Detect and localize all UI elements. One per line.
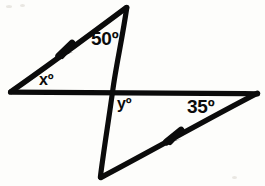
left-to-right-transversal-line	[11, 92, 258, 94]
scan-speck	[232, 176, 237, 179]
geometry-diagram-canvas	[0, 0, 265, 186]
scan-speck	[20, 4, 25, 7]
angle-label-y: yº	[117, 96, 131, 112]
angle-label-x: xº	[39, 72, 53, 88]
angle-label-35: 35º	[187, 97, 214, 116]
geometry-figure: 50º xº yº 35º	[0, 0, 265, 186]
scan-speck	[6, 5, 12, 8]
angle-label-50: 50º	[91, 29, 118, 48]
